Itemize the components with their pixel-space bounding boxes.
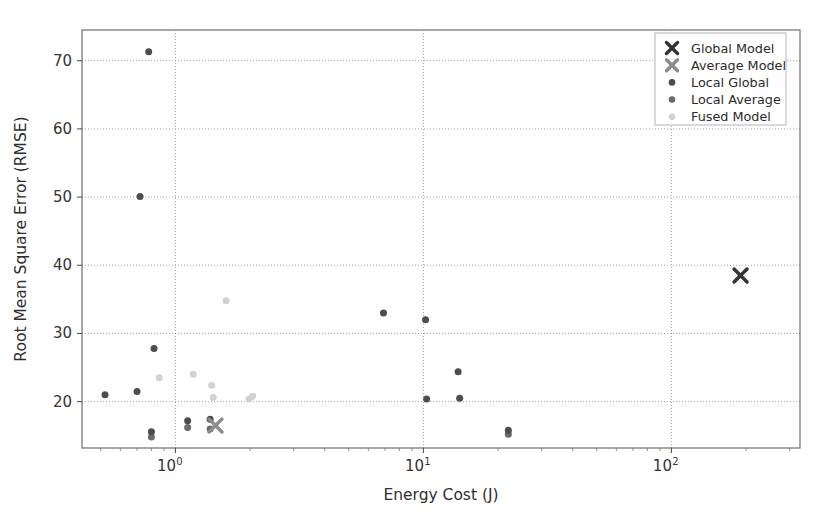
- xtick-label: 10: [405, 457, 424, 475]
- series-local-global: [102, 48, 512, 435]
- legend: Global ModelAverage ModelLocal GlobalLoc…: [655, 33, 786, 125]
- data-point: [145, 48, 152, 55]
- legend-label: Local Global: [691, 75, 769, 90]
- y-axis-title: Root Mean Square Error (RMSE): [12, 116, 30, 361]
- data-point: [505, 427, 512, 434]
- data-point: [734, 269, 747, 282]
- xtick-label: 10: [653, 457, 672, 475]
- data-point: [380, 309, 387, 316]
- data-point: [184, 417, 191, 424]
- ytick-label: 60: [53, 120, 72, 138]
- data-point: [223, 297, 230, 304]
- data-point: [455, 368, 462, 375]
- series-fused-model: [156, 297, 257, 402]
- ytick-label: 20: [53, 393, 72, 411]
- data-point: [102, 391, 109, 398]
- legend-label: Fused Model: [691, 109, 771, 124]
- data-point: [184, 424, 191, 431]
- legend-label: Global Model: [691, 41, 774, 56]
- legend-marker-icon: [669, 79, 676, 86]
- series-local-average: [148, 424, 512, 441]
- data-point: [423, 395, 430, 402]
- xtick-exponent: 1: [424, 456, 430, 467]
- figure-container: 203040506070100101102Energy Cost (J)Root…: [0, 0, 821, 526]
- ytick-label: 70: [53, 52, 72, 70]
- series-global-model: [734, 269, 747, 282]
- data-point: [249, 393, 256, 400]
- legend-label: Average Model: [691, 58, 786, 73]
- data-point: [151, 345, 158, 352]
- legend-marker-icon: [669, 114, 676, 121]
- data-point: [422, 316, 429, 323]
- legend-marker-icon: [669, 96, 676, 103]
- ytick-label: 50: [53, 188, 72, 206]
- xtick-exponent: 0: [176, 456, 182, 467]
- data-point: [148, 428, 155, 435]
- data-point: [208, 382, 215, 389]
- data-point: [210, 394, 217, 401]
- xtick-label: 10: [157, 457, 176, 475]
- data-point: [137, 193, 144, 200]
- x-axis-title: Energy Cost (J): [383, 486, 498, 504]
- ytick-label: 40: [53, 256, 72, 274]
- data-point: [134, 388, 141, 395]
- xtick-exponent: 2: [672, 456, 678, 467]
- data-point: [156, 374, 163, 381]
- data-point: [190, 371, 197, 378]
- ytick-label: 30: [53, 324, 72, 342]
- data-points: [102, 48, 748, 440]
- legend-label: Local Average: [691, 92, 781, 107]
- data-point: [456, 395, 463, 402]
- scatter-plot: 203040506070100101102Energy Cost (J)Root…: [0, 0, 821, 526]
